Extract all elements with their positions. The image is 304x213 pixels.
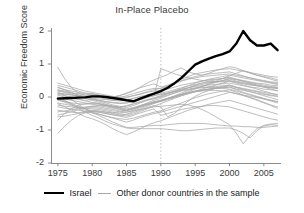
x-tick-label: 2000 [213,168,247,178]
legend-item-other-donors: Other donor countries in the sample [98,188,259,198]
legend-label-other-donors: Other donor countries in the sample [116,188,259,198]
chart-figure: In-Place Placebo Economic Freedom Score … [0,0,304,213]
x-tick-label: 1985 [110,168,144,178]
x-tick-label: 1980 [75,168,109,178]
chart-legend: Israel Other donor countries in the samp… [0,188,304,198]
y-tick-label: 0 [24,91,44,101]
x-tick-label: 1995 [178,168,212,178]
y-tick-label: -1 [24,124,44,134]
y-tick-label: -2 [24,157,44,167]
y-tick-label: 2 [24,25,44,35]
legend-item-israel: Israel [44,188,91,198]
legend-label-israel: Israel [69,188,91,198]
x-tick-label: 1990 [144,168,178,178]
legend-swatch-gray-line-icon [98,193,111,194]
x-tick-label: 2005 [247,168,281,178]
legend-swatch-solid-line-icon [44,192,64,194]
plot-area [0,0,304,213]
x-tick-label: 1975 [41,168,75,178]
y-tick-label: 1 [24,58,44,68]
